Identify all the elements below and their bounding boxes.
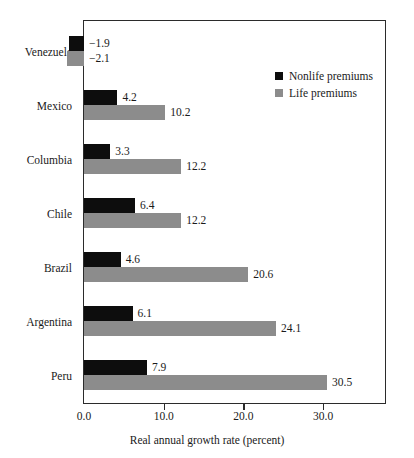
bar-pair: 7.930.5 (0, 349, 414, 403)
x-tick-mark (243, 404, 244, 410)
bar-value-life-chile: 12.2 (186, 213, 206, 228)
bar-nonlife-peru (84, 360, 147, 375)
bar-life-mexico (84, 105, 165, 120)
legend-item-nonlife: Nonlife premiums (275, 68, 373, 83)
bar-value-life-columbia: 12.2 (186, 159, 206, 174)
legend-label-nonlife: Nonlife premiums (289, 70, 373, 82)
bar-nonlife-chile (84, 198, 135, 213)
bar-nonlife-columbia (84, 144, 110, 159)
bar-value-life-brazil: 20.6 (253, 267, 273, 282)
bar-row: Chile6.412.2 (0, 187, 414, 241)
x-tick-mark (164, 404, 165, 410)
bar-value-nonlife-venezuela: −1.9 (89, 36, 110, 51)
legend-item-life: Life premiums (275, 85, 373, 100)
bar-nonlife-venezuela (69, 36, 84, 51)
bar-value-nonlife-brazil: 4.6 (126, 252, 140, 267)
bar-value-nonlife-peru: 7.9 (152, 360, 166, 375)
bar-row: Argentina6.124.1 (0, 295, 414, 349)
bar-row: Columbia3.312.2 (0, 133, 414, 187)
bar-life-brazil (84, 267, 248, 282)
bar-life-chile (84, 213, 181, 228)
x-axis-title: Real annual growth rate (percent) (0, 434, 414, 446)
bar-chart: Venezuela−1.9−2.1Mexico4.210.2Columbia3.… (0, 0, 414, 458)
bar-value-nonlife-argentina: 6.1 (138, 306, 152, 321)
bar-life-peru (84, 375, 327, 390)
bar-value-life-mexico: 10.2 (170, 105, 190, 120)
bar-life-argentina (84, 321, 276, 336)
x-tick-label: 0.0 (77, 410, 91, 422)
chart-legend: Nonlife premiums Life premiums (275, 68, 373, 102)
bar-value-nonlife-chile: 6.4 (140, 198, 154, 213)
x-tick-mark (323, 404, 324, 410)
x-tick-label: 30.0 (313, 410, 333, 422)
bar-value-nonlife-columbia: 3.3 (115, 144, 129, 159)
bar-life-columbia (84, 159, 181, 174)
bar-value-nonlife-mexico: 4.2 (122, 90, 136, 105)
bar-pair: 3.312.2 (0, 133, 414, 187)
bar-value-life-argentina: 24.1 (281, 321, 301, 336)
bar-pair: 6.124.1 (0, 295, 414, 349)
nonlife-swatch-icon (275, 72, 283, 80)
legend-label-life: Life premiums (289, 87, 357, 99)
bar-value-life-peru: 30.5 (332, 375, 352, 390)
x-tick-label: 10.0 (154, 410, 174, 422)
bar-nonlife-brazil (84, 252, 121, 267)
bar-pair: 6.412.2 (0, 187, 414, 241)
bar-row: Peru7.930.5 (0, 349, 414, 403)
bar-value-life-venezuela: −2.1 (89, 51, 110, 66)
bar-nonlife-mexico (84, 90, 117, 105)
bar-nonlife-argentina (84, 306, 133, 321)
bar-pair: 4.620.6 (0, 241, 414, 295)
life-swatch-icon (275, 89, 283, 97)
bar-row: Brazil4.620.6 (0, 241, 414, 295)
x-tick-label: 20.0 (233, 410, 253, 422)
bar-life-venezuela (67, 51, 84, 66)
